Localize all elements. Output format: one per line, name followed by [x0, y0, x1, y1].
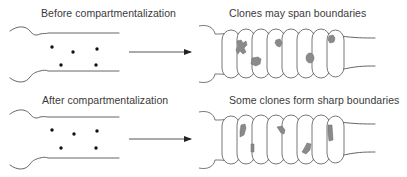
cell-dot-icon [95, 47, 98, 50]
cell-dot-icon [50, 45, 53, 48]
cell-clone-icon [328, 35, 335, 43]
cell-dot-icon [95, 129, 98, 132]
cell-dot-icon [59, 63, 62, 66]
founder-cells [50, 128, 98, 149]
unsegmented-embryo-icon [10, 110, 119, 169]
cell-dot-icon [94, 63, 97, 66]
compartment-diagram [0, 0, 407, 177]
cell-clone-icon [251, 144, 254, 152]
cell-dot-icon [94, 146, 97, 149]
cell-dot-icon [72, 132, 75, 135]
cell-clone-icon [236, 40, 247, 54]
founder-cells [50, 45, 98, 66]
cell-dot-icon [71, 50, 74, 53]
segmented-embryo-icon [199, 25, 375, 82]
cell-clone-icon [306, 53, 314, 63]
cell-clone-icon [328, 125, 333, 141]
unsegmented-embryo-icon [10, 27, 119, 82]
cell-dot-icon [59, 146, 62, 149]
cell-dot-icon [50, 128, 53, 131]
segmented-embryo-icon [199, 111, 375, 168]
